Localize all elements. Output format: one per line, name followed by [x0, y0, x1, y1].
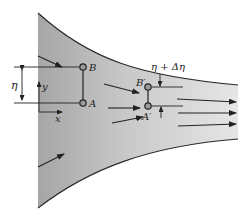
point-b-label: B [88, 62, 96, 73]
point-b [80, 64, 86, 70]
point-a [80, 100, 86, 106]
point-a-prime-label: A′ [141, 111, 152, 122]
fluid-region [38, 13, 238, 208]
point-b-prime-label: B′ [135, 77, 146, 88]
x-axis-label: x [55, 113, 61, 124]
converging-channel-diagram: η y x B A B′ A′ η + Δη [0, 0, 250, 221]
point-a-prime [145, 103, 151, 109]
eta-plus-delta-eta-label: η + Δη [151, 61, 185, 72]
y-axis-label: y [41, 81, 48, 92]
point-a-label: A [88, 98, 96, 109]
eta-label: η [11, 79, 18, 92]
point-b-prime [145, 84, 151, 90]
